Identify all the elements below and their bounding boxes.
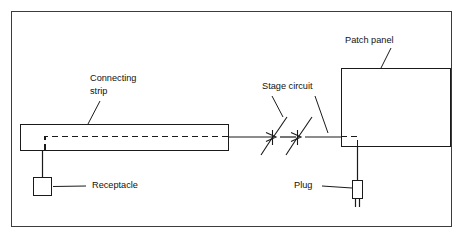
stage-circuit-diagram: Connecting strip Receptacle Stage circui… [0,0,463,239]
label-connecting-strip-line1: Connecting [90,73,136,83]
label-stage-circuit: Stage circuit [262,81,313,91]
label-connecting-strip-line2: strip [90,86,107,96]
label-plug: Plug [294,180,312,190]
figure-container: Connecting strip Receptacle Stage circui… [0,0,463,239]
receptacle-leader [53,186,86,187]
label-receptacle: Receptacle [92,180,138,190]
label-patch-panel: Patch panel [345,35,394,45]
